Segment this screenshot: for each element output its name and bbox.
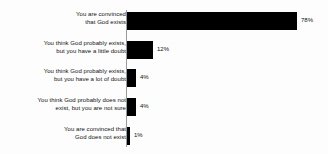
bar-category-label: You are convinced that God does not exis… — [6, 126, 126, 141]
bar-segment — [127, 12, 297, 30]
bar-segment — [127, 69, 136, 87]
bar-segment — [127, 127, 130, 145]
bar-row: You think God probably does not exist, b… — [0, 98, 328, 116]
bar-segment — [127, 98, 136, 116]
bar-value-label: 78% — [301, 17, 313, 24]
bar-category-label: You think God probably does not exist, b… — [6, 97, 126, 112]
bar-value-label: 4% — [140, 103, 149, 110]
bar-value-label: 1% — [134, 132, 143, 139]
bar-row: You are convinced that God does not exis… — [0, 127, 328, 145]
bar-value-label: 4% — [140, 74, 149, 81]
bar-category-label: You are convinced that God exists — [6, 11, 126, 26]
bar-row: You are convinced that God exists 78% — [0, 12, 328, 30]
bar-category-label: You think God probably exists, but you h… — [6, 68, 126, 83]
bar-chart: You are convinced that God exists 78% Yo… — [0, 0, 328, 154]
bar-value-label: 12% — [157, 46, 169, 53]
bar-row: You think God probably exists, but you h… — [0, 69, 328, 87]
bar-category-label: You think God probably exists, but you h… — [6, 40, 126, 55]
bar-segment — [127, 41, 153, 59]
bar-row: You think God probably exists, but you h… — [0, 41, 328, 59]
